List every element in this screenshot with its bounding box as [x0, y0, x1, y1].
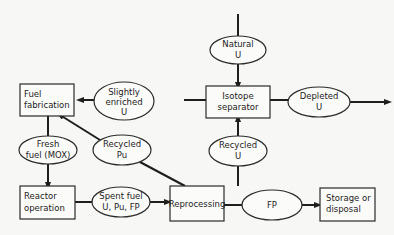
node-slightly-enriched-u: Slightly enriched U: [94, 82, 154, 120]
recycled-pu-line-2: Pu: [117, 150, 127, 160]
node-fp: FP: [242, 190, 302, 220]
storage-line-1: Storage or: [326, 193, 371, 203]
edge-reprocessing-pu: [140, 162, 185, 186]
slightly-enriched-u-line-1: Slightly: [108, 87, 140, 97]
node-isotope-separator: Isotope separator: [206, 86, 270, 118]
fresh-fuel-line-1: Fresh: [37, 139, 60, 149]
slightly-enriched-u-line-2: enriched: [105, 97, 142, 107]
node-storage-or-disposal: Storage or disposal: [320, 188, 375, 221]
fuel-cycle-diagram: Natural U Isotope separator Depleted U S…: [0, 0, 394, 235]
node-recycled-pu: Recycled Pu: [93, 135, 151, 165]
fuel-fabrication-line-1: Fuel: [24, 89, 41, 99]
recycled-u-line-2: U: [235, 151, 241, 161]
reactor-operation-line-1: Reactor: [24, 191, 57, 201]
node-fresh-fuel: Fresh fuel (MOX): [19, 136, 77, 164]
reprocessing-label: Reprocessing: [169, 199, 226, 209]
natural-u-line-2: U: [235, 50, 241, 60]
node-depleted-u: Depleted U: [288, 87, 350, 117]
node-natural-u: Natural U: [210, 36, 266, 64]
node-reprocessing: Reprocessing: [169, 186, 226, 221]
recycled-u-line-1: Recycled: [219, 140, 257, 150]
recycled-pu-line-1: Recycled: [103, 139, 141, 149]
edge-pu-fabrication: [60, 115, 100, 140]
spent-fuel-line-1: Spent fuel: [99, 191, 142, 201]
isotope-separator-line-2: separator: [218, 102, 259, 112]
node-recycled-u: Recycled U: [209, 136, 267, 166]
isotope-separator-line-1: Isotope: [222, 91, 253, 101]
depleted-u-line-1: Depleted: [300, 91, 339, 101]
natural-u-line-1: Natural: [222, 39, 253, 49]
slightly-enriched-u-line-3: U: [121, 107, 127, 117]
reactor-operation-line-2: operation: [24, 203, 65, 213]
fresh-fuel-line-2: fuel (MOX): [26, 150, 71, 160]
fp-label: FP: [267, 200, 277, 210]
depleted-u-line-2: U: [316, 102, 322, 112]
fuel-fabrication-line-2: fabrication: [24, 100, 70, 110]
node-spent-fuel: Spent fuel U, Pu, FP: [92, 187, 150, 217]
node-reactor-operation: Reactor operation: [20, 186, 75, 219]
node-fuel-fabrication: Fuel fabrication: [20, 84, 74, 116]
storage-line-2: disposal: [326, 204, 361, 214]
spent-fuel-line-2: U, Pu, FP: [102, 202, 139, 212]
